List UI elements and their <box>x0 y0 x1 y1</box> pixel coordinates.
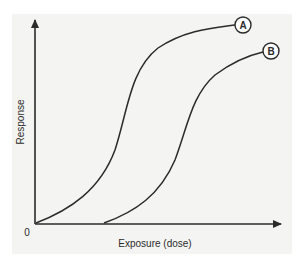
curve-b <box>104 52 263 223</box>
curve-b-label-text: B <box>267 46 274 57</box>
x-axis-label: Exposure (dose) <box>118 238 191 249</box>
curve-a-label: A <box>235 17 251 33</box>
curve-b-label: B <box>263 43 279 59</box>
curve-a <box>36 25 235 223</box>
y-axis-label: Response <box>15 99 26 144</box>
curve-a-label-text: A <box>239 20 246 31</box>
dose-response-diagram: A B 0 Exposure (dose) Response <box>0 0 299 261</box>
origin-label: 0 <box>24 227 30 238</box>
